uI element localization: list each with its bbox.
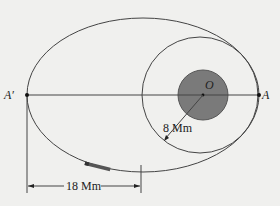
spacecraft-icon [85,161,111,171]
label-radius: 8 Mm [163,121,192,136]
dimension-arrowhead-right [134,184,140,188]
point-a [257,93,261,97]
dimension-arrowhead-left [28,184,34,188]
label-a-prime: A′ [4,88,14,103]
label-distance: 18 Mm [66,179,101,194]
label-o: O [205,78,214,93]
orbit-diagram [0,0,280,206]
point-a-prime [25,93,29,97]
label-a: A [262,88,269,103]
